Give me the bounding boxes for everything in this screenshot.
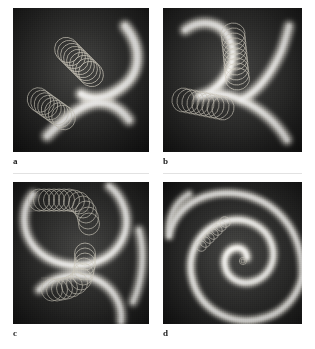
panel-d-graphic xyxy=(163,182,302,324)
panel-a-image xyxy=(13,8,149,152)
panel-a-graphic xyxy=(13,8,149,152)
panel-b-graphic xyxy=(163,8,302,152)
panel-c-graphic xyxy=(13,182,149,324)
figure-container: a b c d xyxy=(0,0,315,349)
panel-label-d: d xyxy=(163,329,168,338)
panel-b xyxy=(163,8,302,152)
panel-d-image xyxy=(163,182,302,324)
panel-label-a: a xyxy=(13,157,18,166)
panel-d xyxy=(163,182,302,324)
row-separator-right xyxy=(163,173,302,174)
panel-a xyxy=(13,8,149,152)
panel-label-c: c xyxy=(13,329,17,338)
panel-c xyxy=(13,182,149,324)
panel-c-image xyxy=(13,182,149,324)
row-separator-left xyxy=(13,173,149,174)
panel-label-b: b xyxy=(163,157,168,166)
panel-b-image xyxy=(163,8,302,152)
